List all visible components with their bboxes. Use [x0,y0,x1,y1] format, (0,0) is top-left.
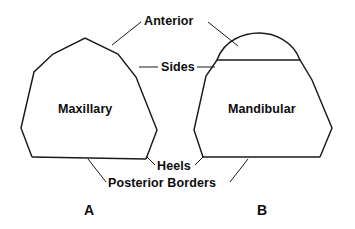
panel-letter-b: B [257,203,267,217]
leader-posterior-left [88,159,106,182]
leader-posterior-right [230,159,248,182]
leader-heels-right [195,156,204,165]
label-sides: Sides [161,61,195,74]
maxillary-arch-outline [21,38,157,159]
label-maxillary: Maxillary [58,103,112,116]
anatomy-diagram-figure: Anterior Sides Heels Posterior Borders M… [0,0,355,229]
label-posterior-borders: Posterior Borders [108,177,216,190]
label-anterior: Anterior [144,15,193,28]
leader-anterior-right [208,22,238,46]
leader-anterior-left [112,22,141,45]
maxillary-posterior-border-line [32,157,146,159]
label-heels: Heels [157,160,191,173]
label-mandibular: Mandibular [228,103,296,116]
panel-letter-a: A [84,203,94,217]
mandibular-anterior-dome [217,33,300,60]
leader-heels-left [146,156,155,165]
diagram-canvas [0,0,355,229]
